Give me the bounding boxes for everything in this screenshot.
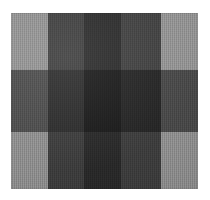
plaid-swatch [11,13,198,189]
plaid-cell-r2-c3 [84,70,121,132]
plaid-cell-r1-c4 [121,13,161,70]
plaid-cell-r3-c3 [84,132,121,189]
plaid-cell-r3-c2 [48,132,84,189]
plaid-cell-r2-c2 [48,70,84,132]
plaid-cell-r2-c5 [161,70,198,132]
plaid-cell-r3-c4 [121,132,161,189]
plaid-cell-r1-c1 [11,13,48,70]
plaid-cell-r2-c1 [11,70,48,132]
plaid-cell-r2-c4 [121,70,161,132]
plaid-cell-r3-c1 [11,132,48,189]
plaid-cell-r1-c5 [161,13,198,70]
plaid-cell-r3-c5 [161,132,198,189]
plaid-cell-r1-c2 [48,13,84,70]
plaid-cell-r1-c3 [84,13,121,70]
image-canvas [0,0,210,200]
